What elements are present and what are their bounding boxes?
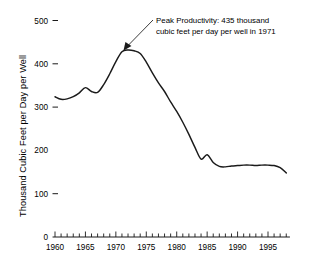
y-tick-label: 300 (34, 103, 48, 112)
peak-annotation-line-1: Peak Productivity: 435 thousand (156, 16, 269, 25)
peak-annotation-line-2: cubic feet per day per well in 1971 (156, 27, 276, 36)
x-axis: 19601965197019751980198519901995 (46, 232, 290, 253)
x-tick-label: 1980 (168, 243, 187, 252)
y-tick-label: 0 (43, 233, 48, 242)
x-tick-label: 1960 (46, 243, 65, 252)
y-tick-label: 500 (34, 17, 48, 26)
productivity-line-chart: Thousand Cubic Feet per Day per Well 010… (0, 0, 313, 278)
x-tick-label: 1985 (198, 243, 217, 252)
y-axis-ticks: 0100200300400500 (34, 17, 58, 243)
y-tick-label: 400 (34, 60, 48, 69)
annotation-leader-line (128, 20, 153, 45)
peak-annotation-arrow (123, 20, 153, 51)
chart-container: Thousand Cubic Feet per Day per Well 010… (0, 0, 313, 278)
y-axis-title: Thousand Cubic Feet per Day per Well (18, 55, 28, 217)
x-tick-label: 1965 (76, 243, 95, 252)
x-tick-label: 1995 (259, 243, 278, 252)
y-tick-label: 100 (34, 190, 48, 199)
data-series-line (55, 50, 286, 173)
x-tick-label: 1970 (107, 243, 126, 252)
x-tick-label: 1990 (228, 243, 247, 252)
x-tick-label: 1975 (137, 243, 156, 252)
y-tick-label: 200 (34, 146, 48, 155)
